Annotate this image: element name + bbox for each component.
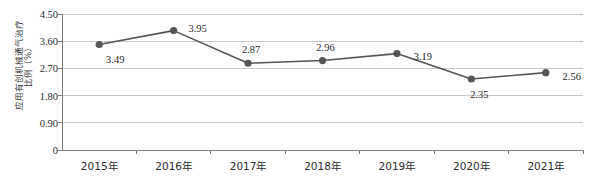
x-tick-label: 2020年 <box>453 158 490 173</box>
x-axis-tick-labels: 2015年2016年2017年2018年2019年2020年2021年 <box>0 0 589 192</box>
x-tick-label: 2019年 <box>379 158 416 173</box>
x-tick-label: 2018年 <box>304 158 341 173</box>
line-chart: 应用有创机械通气治疗 比例（%） 00.901.802.703.604.50 3… <box>0 0 589 192</box>
x-tick-label: 2021年 <box>527 158 564 173</box>
x-tick-label: 2017年 <box>230 158 267 173</box>
x-tick-label: 2015年 <box>81 158 118 173</box>
x-tick-label: 2016年 <box>155 158 192 173</box>
